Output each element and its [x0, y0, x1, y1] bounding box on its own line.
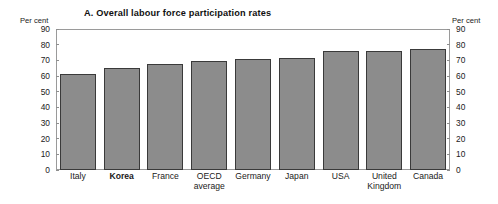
- x-axis-label: Korea: [100, 172, 144, 182]
- x-axis-label: Germany: [231, 172, 275, 182]
- y-tick-label: 80: [41, 39, 50, 51]
- x-axis-label: Italy: [56, 172, 100, 182]
- y-tick-label: 0: [456, 164, 461, 176]
- y-tick-label: 80: [456, 39, 465, 51]
- x-axis-label: Canada: [406, 172, 450, 182]
- y-tick-label: 40: [41, 101, 50, 113]
- y-tick-label: 60: [41, 70, 50, 82]
- bar: [191, 61, 227, 170]
- y-tick-label: 90: [41, 23, 50, 35]
- bar: [279, 58, 315, 170]
- y-tick-label: 90: [456, 23, 465, 35]
- bar: [60, 74, 96, 170]
- x-axis-label: Japan: [275, 172, 319, 182]
- y-tick-label: 50: [456, 86, 465, 98]
- y-tick-label: 70: [456, 54, 465, 66]
- chart-figure: A. Overall labour force participation ra…: [0, 0, 498, 204]
- bar: [235, 59, 271, 170]
- y-tick-label: 0: [45, 164, 50, 176]
- bar: [366, 51, 402, 170]
- bar: [410, 49, 446, 170]
- page-title: A. Overall labour force participation ra…: [84, 8, 271, 18]
- bar: [147, 64, 183, 170]
- y-tick-label: 30: [41, 117, 50, 129]
- y-tick-label: 70: [41, 54, 50, 66]
- bar: [323, 51, 359, 170]
- bar-series: [56, 29, 450, 170]
- y-tick-label: 10: [41, 148, 50, 160]
- y-tick-label: 20: [456, 133, 465, 145]
- x-axis-label: France: [144, 172, 188, 182]
- x-axis-categories: ItalyKoreaFranceOECD averageGermanyJapan…: [56, 172, 450, 202]
- bar: [104, 68, 140, 170]
- y-tick-label: 40: [456, 101, 465, 113]
- x-axis-label: USA: [319, 172, 363, 182]
- x-axis-label: OECD average: [187, 172, 231, 191]
- y-tick-label: 50: [41, 86, 50, 98]
- y-tick-label: 20: [41, 133, 50, 145]
- y-tick-label: 10: [456, 148, 465, 160]
- x-axis-label: United Kingdom: [362, 172, 406, 191]
- y-tick-label: 30: [456, 117, 465, 129]
- y-tick-label: 60: [456, 70, 465, 82]
